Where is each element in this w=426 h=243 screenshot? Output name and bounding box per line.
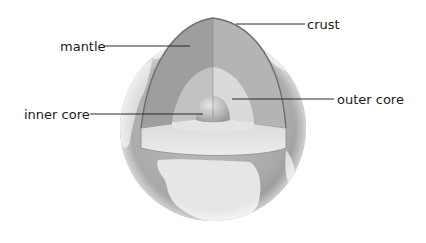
label-text-inner-core: inner core [24, 107, 90, 122]
label-text-mantle: mantle [60, 39, 106, 54]
label-text-outer-core: outer core [337, 92, 404, 107]
cutaway [141, 18, 286, 156]
label-crust: crust [236, 17, 340, 32]
earth-diagram: crust mantle outer core inner core [0, 0, 426, 243]
label-text-crust: crust [307, 17, 340, 32]
